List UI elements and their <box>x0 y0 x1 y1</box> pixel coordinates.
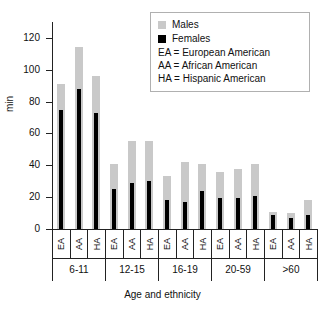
legend-item-males: Males <box>158 18 302 31</box>
y-axis-tick <box>46 197 52 198</box>
ethnicity-cell: HA <box>299 229 317 259</box>
y-axis-tick-label: 100 <box>14 65 40 75</box>
legend-label-females: Females <box>172 34 210 44</box>
bar-females <box>77 89 81 229</box>
y-axis-tick-label: 60 <box>14 128 40 138</box>
ethnicity-cell: AA <box>70 229 88 259</box>
ethnicity-cell: AA <box>282 229 300 259</box>
bar-females <box>289 218 293 229</box>
ethnicity-cell: EA <box>264 229 282 259</box>
bar-females <box>253 196 257 229</box>
ethnicity-label: HA <box>145 238 154 251</box>
ethnicity-label: HA <box>198 238 207 251</box>
age-group-cell: 20-59 <box>211 259 264 281</box>
age-group-cell: >60 <box>264 259 317 281</box>
age-group-cell: 12-15 <box>105 259 158 281</box>
age-group-label: 20-59 <box>225 265 251 275</box>
ethnicity-label: AA <box>74 238 83 250</box>
ethnicity-cell: AA <box>229 229 247 259</box>
ethnicity-cell: EA <box>105 229 123 259</box>
ethnicity-label-row: EAAAHAEAAAHAEAAAHAEAAAHAEAAAHA <box>52 229 318 259</box>
ethnicity-cell: EA <box>158 229 176 259</box>
bar-females <box>183 202 187 229</box>
bar-females <box>236 198 240 229</box>
ethnicity-row-right-edge <box>317 229 318 259</box>
ethnicity-label: EA <box>269 238 278 250</box>
ethnicity-label: EA <box>110 238 119 250</box>
legend-item-females: Females <box>158 32 302 45</box>
y-axis-tick <box>46 133 52 134</box>
bar-females <box>59 110 63 229</box>
ethnicity-label: HA <box>304 238 313 251</box>
bar-females <box>147 181 151 229</box>
ethnicity-label: EA <box>163 238 172 250</box>
age-group-label-row: 6-1112-1516-1920-59>60 <box>52 259 318 281</box>
bar-females <box>112 189 116 229</box>
bar-chart: min 020406080100120 EAAAHAEAAAHAEAAAHAEA… <box>0 0 325 316</box>
legend-note-aa: AA = African American <box>158 59 302 72</box>
legend-note-ea: EA = European American <box>158 46 302 59</box>
age-group-cell: 6-11 <box>52 259 105 281</box>
bar-females <box>271 215 275 229</box>
ethnicity-label: EA <box>57 238 66 250</box>
legend-swatch-females <box>158 35 166 43</box>
ethnicity-cell: EA <box>52 229 70 259</box>
y-axis-tick-label: 80 <box>14 97 40 107</box>
ethnicity-label: AA <box>233 238 242 250</box>
age-group-label: 16-19 <box>172 265 198 275</box>
age-group-row-right-edge <box>317 259 318 281</box>
age-group-label: >60 <box>283 265 300 275</box>
x-axis-label: Age and ethnicity <box>0 289 325 300</box>
ethnicity-label: AA <box>127 238 136 250</box>
legend-note-ha: HA = Hispanic American <box>158 72 302 85</box>
ethnicity-cell: AA <box>176 229 194 259</box>
y-axis-tick-label: 120 <box>14 33 40 43</box>
ethnicity-cell: HA <box>140 229 158 259</box>
y-axis-tick <box>46 70 52 71</box>
ethnicity-cell: HA <box>87 229 105 259</box>
bar-females <box>130 183 134 229</box>
legend-label-males: Males <box>172 20 199 30</box>
ethnicity-cell: AA <box>123 229 141 259</box>
legend-swatch-males <box>158 21 166 29</box>
ethnicity-label: AA <box>286 238 295 250</box>
y-axis-tick <box>46 38 52 39</box>
y-axis-tick-label: 40 <box>14 160 40 170</box>
y-axis-tick <box>46 165 52 166</box>
bar-females <box>218 198 222 229</box>
ethnicity-cell: EA <box>211 229 229 259</box>
bar-females <box>94 113 98 229</box>
ethnicity-label: HA <box>92 238 101 251</box>
ethnicity-label: EA <box>216 238 225 250</box>
bar-females <box>165 200 169 229</box>
age-group-label: 6-11 <box>69 265 88 275</box>
ethnicity-label: HA <box>251 238 260 251</box>
age-group-label: 12-15 <box>119 265 145 275</box>
chart-legend: Males Females EA = European American AA … <box>150 12 310 92</box>
bar-females <box>200 191 204 229</box>
y-axis-tick-label: 20 <box>14 192 40 202</box>
ethnicity-cell: HA <box>246 229 264 259</box>
age-group-cell: 16-19 <box>158 259 211 281</box>
ethnicity-label: AA <box>180 238 189 250</box>
y-axis-tick-label: 0 <box>14 224 40 234</box>
bar-females <box>306 215 310 229</box>
y-axis-tick <box>46 102 52 103</box>
ethnicity-cell: HA <box>193 229 211 259</box>
